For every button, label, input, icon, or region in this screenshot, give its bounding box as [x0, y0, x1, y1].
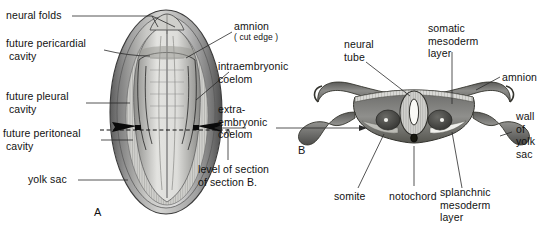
label-extraembryonic-coelom: extra- embryonic coelom [218, 103, 267, 141]
label-wall-of-yolk-sac: wall of yolk sac [516, 110, 535, 160]
label-notochord: notochord [389, 190, 437, 203]
label-future-pleural: future pleural cavity [6, 90, 69, 115]
label-future-pericardial: future pericardial cavity [6, 37, 86, 62]
label-neural-tube: neural tube [344, 38, 374, 63]
label-intraembryonic-coelom: intraembryonic coelom [218, 60, 288, 85]
label-amnion-cut-note: ( cut edge ) [234, 32, 278, 42]
panel-b-artwork [299, 82, 530, 145]
label-future-peritoneal: future peritoneal cavity [3, 127, 81, 152]
panel-letter-a: A [94, 206, 101, 218]
label-amnion-cut: amnion [234, 20, 269, 33]
leader-splanchnic [452, 132, 462, 188]
label-neural-folds: neural folds [6, 9, 61, 22]
label-yolk-sac: yolk sac [28, 173, 67, 186]
panel-letter-b: B [298, 144, 305, 156]
label-somatic-mesoderm: somatic mesoderm layer [428, 22, 478, 60]
leader-somite [358, 134, 384, 188]
label-amnion: amnion [502, 71, 537, 84]
label-level-of-section: level of section of section B. [198, 163, 269, 188]
label-somite: somite [334, 190, 366, 203]
embryology-figure: neural folds future pericardial cavity f… [0, 0, 545, 229]
label-splanchnic-mesoderm: splanchnic mesoderm layer [440, 186, 491, 224]
